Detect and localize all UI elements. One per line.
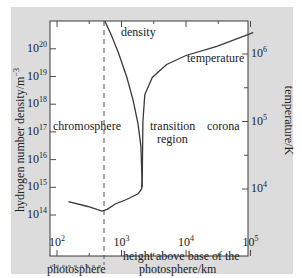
y-axis-left-title-exp: −3 <box>12 68 21 77</box>
y-left-tick-label: 1019 <box>27 70 47 82</box>
y-left-tick-label: 1015 <box>27 180 47 192</box>
corona-label: corona <box>207 120 240 132</box>
y-left-tick-label: 1017 <box>27 125 47 137</box>
x-axis-title-line2: photosphere/km <box>139 263 216 275</box>
x-tick-label: 103 <box>114 236 130 248</box>
y-axis-right-title: temperature/K <box>281 71 296 171</box>
x-tick-label: 102 <box>49 236 65 248</box>
y-left-tick-label: 1018 <box>27 97 47 109</box>
transition-label-line2: region <box>157 133 188 145</box>
y-left-tick-label: 1016 <box>27 153 47 165</box>
transition-label-line1: transition <box>150 120 195 132</box>
y-right-tick-label: 106 <box>251 47 267 59</box>
photosphere-label: photosphere <box>47 263 106 275</box>
y-right-tick-label: 105 <box>251 115 267 127</box>
density-label: density <box>121 26 156 38</box>
chromosphere-label: chromosphere <box>53 120 121 132</box>
x-tick-label: 105 <box>243 236 259 248</box>
y-axis-left-title: hydrogen number density/m−3 <box>12 40 28 240</box>
x-tick-label: 104 <box>178 236 194 248</box>
temperature-label: temperature <box>187 52 244 64</box>
x-axis-title-line1: height above base of the <box>123 250 240 262</box>
y-axis-left-title-text: hydrogen number density/m <box>13 77 27 212</box>
y-left-tick-label: 1020 <box>27 42 47 54</box>
y-right-tick-label: 104 <box>251 182 267 194</box>
y-left-tick-label: 1014 <box>27 208 47 220</box>
